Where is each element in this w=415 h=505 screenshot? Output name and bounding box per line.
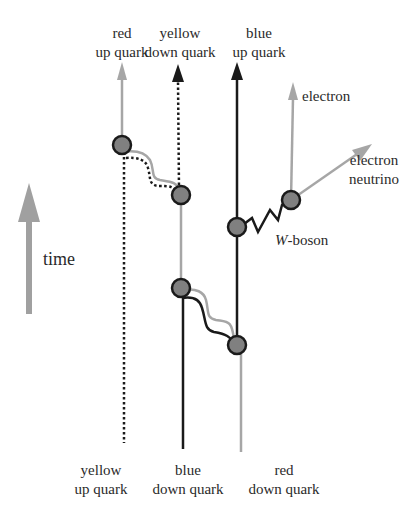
label-electron-neutrino: electron neutrino xyxy=(340,151,408,189)
label-line: down quark xyxy=(239,480,329,499)
yellow-down-quark-line xyxy=(172,64,184,190)
vertex xyxy=(282,191,300,209)
label-line: red xyxy=(239,461,329,480)
blue-up-quark-line xyxy=(231,62,243,345)
vertex xyxy=(113,136,131,154)
label-line: neutrino xyxy=(340,170,408,189)
label-blue-down-quark-bottom: blue down quark xyxy=(143,461,233,499)
label-blue-up-quark-top: blue up quark xyxy=(219,24,299,62)
vertex xyxy=(228,336,246,354)
label-line: down quark xyxy=(135,43,225,62)
label-red-down-quark-bottom: red down quark xyxy=(239,461,329,499)
label-line: blue xyxy=(219,24,299,43)
label-line: blue xyxy=(143,461,233,480)
electron-line xyxy=(288,82,298,200)
label-electron: electron xyxy=(302,87,350,106)
label-line: up quark xyxy=(219,43,299,62)
label-time: time xyxy=(43,250,75,269)
label-line: electron xyxy=(340,151,408,170)
red-up-quark-line xyxy=(117,62,127,145)
gluon-2 xyxy=(182,289,236,346)
w-symbol: W xyxy=(275,232,288,248)
vertex xyxy=(228,218,246,236)
label-line: yellow xyxy=(61,461,141,480)
label-line: up quark xyxy=(61,480,141,499)
vertex xyxy=(172,186,190,204)
label-yellow-up-quark-bottom: yellow up quark xyxy=(61,461,141,499)
label-line: yellow xyxy=(135,24,225,43)
boson-text: -boson xyxy=(288,232,329,248)
time-arrow-icon xyxy=(18,183,40,314)
vertex xyxy=(172,279,190,297)
label-yellow-down-quark-top: yellow down quark xyxy=(135,24,225,62)
feynman-diagram: red up quark yellow down quark blue up q… xyxy=(0,0,415,505)
label-w-boson: W-boson xyxy=(275,231,328,250)
vertices xyxy=(113,136,300,354)
gluon-1 xyxy=(122,151,180,195)
label-line: down quark xyxy=(143,480,233,499)
